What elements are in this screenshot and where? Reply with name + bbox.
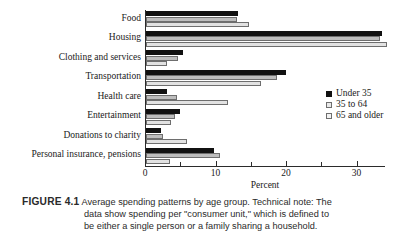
figure-caption: FIGURE 4.1 Average spending patterns by …: [22, 196, 394, 233]
category-label: Clothing and services: [1, 52, 141, 62]
x-minor-tick-5: [180, 162, 181, 166]
bar-1-0: [146, 17, 237, 22]
x-tick-label: 10: [211, 168, 221, 178]
x-tick-0: [145, 161, 146, 166]
caption-line-3: be either a single person or a family sh…: [84, 220, 394, 233]
bar-0-0: [146, 11, 238, 16]
category-label: Personal insurance, pensions: [1, 149, 141, 159]
x-tick-20: [286, 161, 287, 166]
x-tick-label: 20: [281, 168, 291, 178]
bar-0-6: [146, 128, 161, 133]
bar-0-3: [146, 70, 286, 75]
category-label: Entertainment: [1, 110, 141, 120]
legend-item-1: 35 to 64: [326, 99, 384, 110]
category-label: Housing: [1, 32, 141, 42]
bar-0-2: [146, 50, 183, 55]
legend-label: Under 35: [336, 88, 372, 99]
bar-1-5: [146, 114, 175, 119]
legend-swatch-icon: [326, 91, 332, 97]
y-axis-line: [145, 10, 146, 166]
x-tick-label: 30: [352, 168, 362, 178]
bar-1-4: [146, 95, 177, 100]
bar-0-5: [146, 109, 180, 114]
bar-1-6: [146, 134, 163, 139]
legend: Under 3535 to 6465 and older: [326, 88, 384, 121]
bar-1-7: [146, 153, 220, 158]
bar-2-0: [146, 22, 249, 27]
bar-1-2: [146, 56, 178, 61]
bar-2-2: [146, 61, 167, 66]
bar-2-5: [146, 120, 171, 125]
caption-line-2: data show spending per "consumer unit," …: [84, 208, 394, 221]
category-label: Transportation: [1, 71, 141, 81]
bar-2-4: [146, 100, 228, 105]
page-bleed-text: [118, 0, 398, 4]
category-label: Food: [1, 13, 141, 23]
x-axis-line: [145, 166, 385, 167]
legend-swatch-icon: [326, 113, 332, 119]
bar-2-6: [146, 139, 187, 144]
x-tick-10: [216, 161, 217, 166]
x-minor-tick-15: [251, 162, 252, 166]
category-label: Health care: [1, 91, 141, 101]
bar-0-4: [146, 89, 167, 94]
category-axis-labels: FoodHousingClothing and servicesTranspor…: [0, 10, 141, 166]
legend-label: 65 and older: [336, 110, 384, 121]
x-tick-label: 0: [143, 168, 148, 178]
bar-1-3: [146, 75, 277, 80]
legend-item-2: 65 and older: [326, 110, 384, 121]
legend-swatch-icon: [326, 102, 332, 108]
category-label: Donations to charity: [1, 130, 141, 140]
x-axis-title: Percent: [145, 180, 385, 190]
bar-2-7: [146, 159, 170, 164]
bar-1-1: [146, 36, 380, 41]
bar-2-1: [146, 42, 387, 47]
bar-0-7: [146, 148, 214, 153]
bar-0-1: [146, 31, 382, 36]
x-minor-tick-25: [321, 162, 322, 166]
caption-line-1: Average spending patterns by age group. …: [82, 197, 332, 207]
x-tick-30: [357, 161, 358, 166]
bar-2-3: [146, 81, 261, 86]
legend-label: 35 to 64: [336, 99, 367, 110]
figure-label: FIGURE 4.1: [22, 196, 79, 207]
legend-item-0: Under 35: [326, 88, 384, 99]
figure-container: FoodHousingClothing and servicesTranspor…: [0, 0, 405, 239]
